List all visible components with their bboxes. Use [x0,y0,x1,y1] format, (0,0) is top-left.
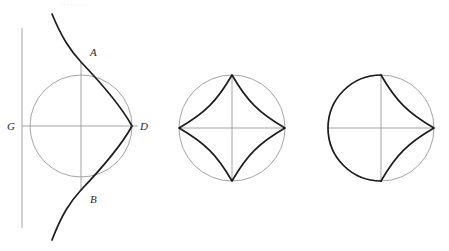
label-d: D [139,120,148,132]
figure-right [328,75,434,181]
figure-left: A B G D [7,14,148,240]
figure-page: . . . . . . . . A B G D [0,0,449,251]
cut-off-text-top: . . . . . . . . [60,0,87,7]
figure-middle [179,75,285,181]
label-g: G [7,120,15,132]
figure-canvas: . . . . . . . . A B G D [0,0,449,251]
label-b: B [90,193,97,205]
label-a: A [89,46,97,58]
